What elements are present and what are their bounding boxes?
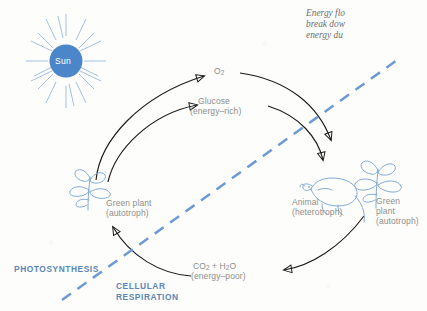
- label-plant-right-line2: plant: [376, 206, 395, 216]
- label-plant-left-line2: (autotroph): [106, 208, 149, 218]
- zone-label-respiration: RESPIRATION: [116, 292, 179, 303]
- label-plant-left-line1: Green plant: [106, 198, 152, 208]
- zone-label-cellular: CELLULAR: [116, 281, 166, 292]
- caption-line-1: Energy flo: [306, 8, 345, 19]
- caption-line-2: break dow: [306, 19, 345, 30]
- zone-label-photosynthesis: PHOTOSYNTHESIS: [14, 264, 99, 275]
- label-animal-line1: Animal: [292, 197, 319, 207]
- label-plant-right-line1: Green: [376, 196, 400, 206]
- label-oxygen: O2: [214, 66, 224, 78]
- label-glucose-line1: Glucose: [198, 96, 230, 106]
- label-animal-line2: (heterotroph): [292, 207, 342, 217]
- diagram-canvas: Sun: [0, 0, 427, 311]
- label-glucose-line2: (energy–rich): [190, 106, 241, 116]
- label-co2-energy-poor: (energy–poor): [191, 271, 246, 281]
- caption-line-3: energy du: [306, 30, 343, 41]
- label-plant-right-line3: (autotroph): [376, 216, 419, 226]
